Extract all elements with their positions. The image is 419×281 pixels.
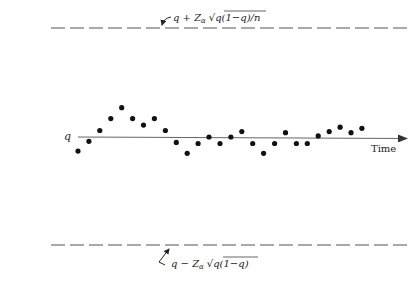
upper-limit-pointer-arrow-icon (162, 17, 171, 25)
data-point (305, 141, 310, 146)
data-point (250, 141, 255, 146)
data-point (141, 123, 146, 128)
data-point (228, 134, 233, 139)
data-point (217, 141, 222, 146)
data-point (196, 141, 201, 146)
data-point (86, 139, 91, 144)
data-point (130, 116, 135, 121)
data-point (75, 149, 80, 154)
x-axis-label: Time (371, 143, 396, 154)
data-point (283, 130, 288, 135)
center-line-label: q (64, 130, 71, 143)
data-point (163, 128, 168, 133)
data-point (294, 141, 299, 146)
data-point (239, 129, 244, 134)
data-point (261, 151, 266, 156)
data-point (152, 116, 157, 121)
data-point (119, 105, 124, 110)
data-point (108, 116, 113, 121)
data-point (316, 133, 321, 138)
time-axis-center-line (78, 137, 407, 139)
control-chart: q Time q + Zα√q(1−q)/n q − Zα√q(1−q) (0, 0, 419, 281)
data-point (272, 141, 277, 146)
data-point (327, 129, 332, 134)
data-point (206, 134, 211, 139)
data-point (359, 126, 364, 131)
data-points (75, 105, 364, 156)
data-point (348, 130, 353, 135)
data-point (185, 151, 190, 156)
data-point (174, 140, 179, 145)
upper-limit-label: q + Zα√q(1−q)/n (173, 12, 260, 25)
data-point (338, 125, 343, 130)
lower-limit-pointer-arrow-icon (159, 249, 169, 265)
lower-limit-label: q − Zα√q(1−q) (171, 258, 249, 271)
data-point (97, 128, 102, 133)
